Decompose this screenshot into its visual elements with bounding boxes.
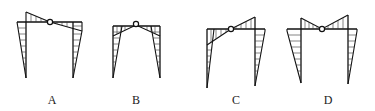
option-label-b: B xyxy=(132,94,140,106)
option-label-a: A xyxy=(48,94,57,106)
option-label-c: C xyxy=(232,94,240,106)
diagram-d xyxy=(287,15,357,84)
hinge-icon xyxy=(319,26,324,31)
diagram-b xyxy=(113,21,160,78)
diagram-c xyxy=(207,17,265,88)
hinge-icon xyxy=(228,26,233,31)
hinge-icon xyxy=(47,19,52,24)
option-label-d: D xyxy=(324,94,333,106)
hinge-icon xyxy=(133,21,138,26)
moment-diagram-figure: A B C D xyxy=(0,0,375,111)
diagram-a xyxy=(17,12,82,78)
